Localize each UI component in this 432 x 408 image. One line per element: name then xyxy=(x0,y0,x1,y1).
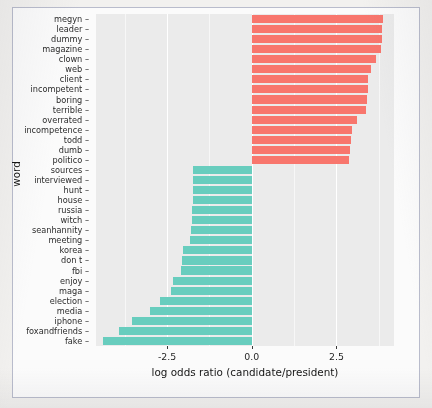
bar xyxy=(252,25,382,33)
bar xyxy=(119,327,252,335)
x-axis-title: log odds ratio (candidate/president) xyxy=(96,366,394,378)
y-axis-tick-label: russia – xyxy=(58,206,89,214)
gridline-minor xyxy=(294,14,295,346)
bar xyxy=(252,116,357,124)
y-axis-tick-label: incompetent – xyxy=(30,85,89,93)
y-axis-tick-label: maga – xyxy=(59,287,89,295)
bar xyxy=(252,45,381,53)
bar xyxy=(252,55,376,63)
gridline-major xyxy=(252,14,253,346)
y-axis-tick-label: fake – xyxy=(65,337,89,345)
y-axis-tick-label: terrible – xyxy=(53,106,89,114)
bar xyxy=(252,136,351,144)
bar xyxy=(252,146,351,154)
bar xyxy=(193,176,252,184)
bar xyxy=(193,186,252,194)
bar xyxy=(160,297,252,305)
y-axis-tick-label: house – xyxy=(58,196,89,204)
x-axis-tick-mark xyxy=(336,346,337,349)
y-axis-tick-label: dummy – xyxy=(51,35,89,43)
bar xyxy=(252,15,383,23)
bar xyxy=(192,206,252,214)
y-axis-tick-label: media – xyxy=(57,307,89,315)
bar xyxy=(191,226,251,234)
bar xyxy=(252,85,368,93)
gridline-minor xyxy=(125,14,126,346)
bar xyxy=(190,236,252,244)
y-axis-tick-label: client – xyxy=(60,75,89,83)
bar xyxy=(171,287,252,295)
y-axis-tick-label: fbi – xyxy=(72,267,89,275)
y-axis-tick-label: clown – xyxy=(59,55,89,63)
y-axis-tick-label: todd – xyxy=(64,136,89,144)
bar xyxy=(252,156,350,164)
y-axis-tick-label: boring – xyxy=(56,96,89,104)
plot-panel xyxy=(96,14,394,346)
y-axis-tick-label: web – xyxy=(65,65,89,73)
bar xyxy=(173,277,252,285)
y-axis-tick-label: election – xyxy=(50,297,89,305)
y-axis-tick-label: interviewed – xyxy=(34,176,89,184)
y-axis-tick-label: dumb – xyxy=(59,146,89,154)
bar xyxy=(103,337,251,345)
bar xyxy=(252,95,367,103)
x-axis-tick-label: -2.5 xyxy=(158,351,176,362)
x-axis-tick-label: 2.5 xyxy=(329,351,344,362)
bar xyxy=(150,307,252,315)
bar xyxy=(252,126,352,134)
bar xyxy=(252,65,371,73)
y-axis-tick-label: sources – xyxy=(51,166,89,174)
bar xyxy=(193,166,252,174)
bar xyxy=(252,35,382,43)
y-axis-tick-label: incompetence – xyxy=(24,126,89,134)
bar xyxy=(252,106,366,114)
bar xyxy=(192,216,252,224)
y-axis-tick-label: meeting – xyxy=(48,236,89,244)
y-axis-tick-label: foxandfriends – xyxy=(26,327,89,335)
y-axis-tick-label: politico – xyxy=(53,156,89,164)
bar-chart: megyn –leader –dummy –magazine –clown –w… xyxy=(0,0,432,408)
bar xyxy=(182,256,252,264)
y-axis-tick-label: seanhannity – xyxy=(32,226,89,234)
y-axis-tick-label: witch – xyxy=(60,216,89,224)
y-axis-tick-label: hunt – xyxy=(64,186,89,194)
x-axis-tick-mark xyxy=(252,346,253,349)
y-axis-title: word xyxy=(10,134,22,214)
bar xyxy=(252,75,368,83)
bar xyxy=(193,196,252,204)
x-axis-tick-label: 0.0 xyxy=(244,351,259,362)
y-axis-tick-label: enjoy – xyxy=(60,277,89,285)
bar xyxy=(132,317,252,325)
screenshot-root: megyn –leader –dummy –magazine –clown –w… xyxy=(0,0,432,408)
gridline-major xyxy=(336,14,337,346)
y-axis-tick-label: don t – xyxy=(61,256,89,264)
y-axis-tick-label: leader – xyxy=(56,25,89,33)
bar xyxy=(183,246,252,254)
x-axis-tick-mark xyxy=(167,346,168,349)
gridline-minor xyxy=(379,14,380,346)
y-axis-tick-label: overrated – xyxy=(42,116,89,124)
y-axis-tick-label: iphone – xyxy=(54,317,89,325)
y-axis-tick-label: magazine – xyxy=(42,45,89,53)
y-axis-tick-label: korea – xyxy=(60,246,89,254)
y-axis-tick-label: megyn – xyxy=(54,15,89,23)
bar xyxy=(181,266,251,274)
